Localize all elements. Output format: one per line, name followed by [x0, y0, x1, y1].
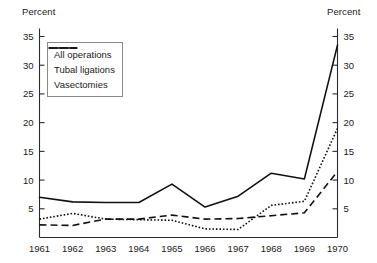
svg-text:1966: 1966 [194, 243, 215, 254]
legend-label: Vasectomies [54, 80, 108, 90]
legend-item-vasectomies: Vasectomies [54, 77, 115, 92]
svg-text:25: 25 [344, 88, 355, 99]
y-axis-left: 5101520253035 [23, 31, 45, 214]
svg-text:20: 20 [23, 117, 34, 128]
svg-text:1963: 1963 [95, 243, 116, 254]
svg-text:5: 5 [28, 203, 33, 214]
svg-text:30: 30 [344, 60, 355, 71]
x-axis: 1961196219631964196519661967196819691970 [29, 243, 348, 254]
legend-item-tubal-ligations: Tubal ligations [54, 62, 115, 77]
svg-text:1961: 1961 [29, 243, 50, 254]
svg-text:1968: 1968 [261, 243, 282, 254]
svg-text:10: 10 [23, 175, 34, 186]
svg-text:1964: 1964 [128, 243, 149, 254]
chart-legend: All operationsTubal ligationsVasectomies [47, 42, 123, 97]
legend-swatch-dotted-icon [48, 43, 78, 53]
line-chart-plot: 5101520253035 5101520253035 196119621963… [0, 0, 377, 263]
svg-text:1967: 1967 [228, 243, 249, 254]
chart-container: Percent Percent 5101520253035 5101520253… [0, 0, 377, 263]
svg-text:35: 35 [344, 31, 355, 42]
svg-text:35: 35 [23, 31, 34, 42]
svg-text:1962: 1962 [62, 243, 83, 254]
svg-text:1969: 1969 [294, 243, 315, 254]
series-line-tubal-ligations [40, 171, 338, 225]
svg-text:1965: 1965 [161, 243, 182, 254]
svg-text:25: 25 [23, 88, 34, 99]
legend-label: Tubal ligations [54, 65, 115, 75]
svg-text:30: 30 [23, 60, 34, 71]
svg-text:1970: 1970 [327, 243, 348, 254]
svg-text:5: 5 [344, 203, 349, 214]
y-axis-right: 5101520253035 [333, 31, 355, 214]
svg-text:20: 20 [344, 117, 355, 128]
svg-text:15: 15 [344, 146, 355, 157]
svg-text:10: 10 [344, 175, 355, 186]
svg-text:15: 15 [23, 146, 34, 157]
